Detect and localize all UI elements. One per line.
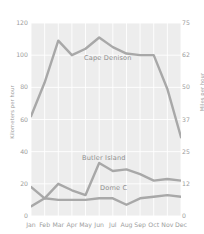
x-axis-ticks: JanFebMarAprMayJunJulAugSepOctNovDec [31, 222, 181, 232]
x-axis-tick-label: Dec [175, 222, 187, 228]
axis-tick-label: 37 [182, 117, 198, 123]
y-axis-left-ticks: 120100806040200 [12, 0, 28, 234]
axis-tick-label: 120 [12, 20, 28, 26]
x-axis-tick-label: Feb [39, 222, 50, 228]
axis-tick-label: 100 [12, 52, 28, 58]
x-axis-tick-label: Aug [120, 222, 132, 228]
x-axis-tick-label: Sep [134, 222, 146, 228]
axis-tick-label: 62 [182, 52, 198, 58]
series-label-butler-island: Butler Island [82, 155, 126, 162]
series-label-dome-c: Dome C [100, 185, 127, 192]
axis-tick-label: 80 [12, 84, 28, 90]
axis-tick-label: 75 [182, 20, 198, 26]
axis-tick-label: 12 [182, 181, 198, 187]
axis-tick-label: 60 [12, 117, 28, 123]
x-axis-tick-label: Mar [52, 222, 64, 228]
y-axis-right-ticks: 7562503725120 [182, 0, 198, 234]
x-axis-tick-label: May [79, 222, 92, 228]
x-axis-tick-label: Jul [109, 222, 116, 228]
axis-tick-label: 40 [12, 149, 28, 155]
line-chart: Kilometers per hour Miles per hour 12010… [0, 0, 204, 234]
x-axis-tick-label: Nov [161, 222, 173, 228]
y-axis-right-title: Miles per hour [199, 73, 204, 111]
x-axis-tick-label: Apr [67, 222, 78, 228]
x-axis-tick-label: Oct [148, 222, 159, 228]
axis-tick-label: 50 [182, 84, 198, 90]
axis-tick-label: 0 [12, 213, 28, 219]
axis-tick-label: 20 [12, 181, 28, 187]
x-axis-tick-label: Jun [94, 222, 104, 228]
axis-tick-label: 0 [182, 213, 198, 219]
series-label-cape-denison: Cape Denison [84, 55, 132, 62]
axis-tick-label: 25 [182, 149, 198, 155]
x-axis-tick-label: Jan [26, 222, 36, 228]
